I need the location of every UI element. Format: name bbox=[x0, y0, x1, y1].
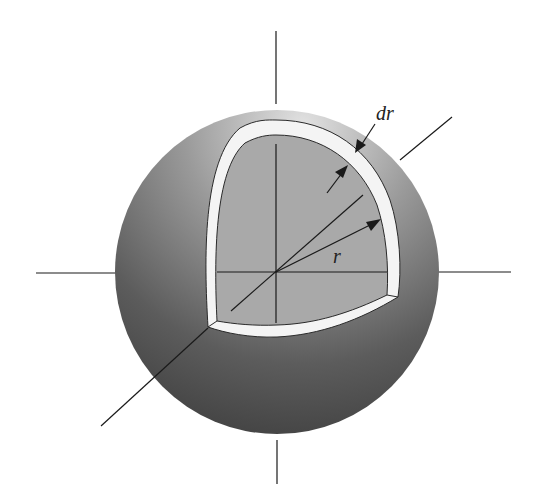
dr-label: dr bbox=[376, 102, 394, 124]
x-axis-back bbox=[400, 117, 452, 160]
r-label: r bbox=[333, 245, 341, 267]
spherical-shell-diagram: dr r bbox=[0, 0, 544, 484]
